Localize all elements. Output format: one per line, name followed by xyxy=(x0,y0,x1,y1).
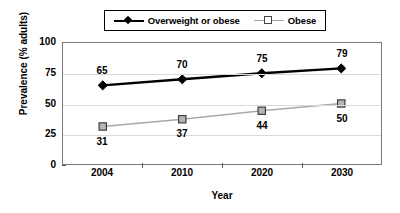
chart-legend: Overweight or obese Obese xyxy=(104,10,326,31)
y-tick-label: 25 xyxy=(16,129,56,139)
y-tick-mark xyxy=(62,165,66,166)
x-tick-mark xyxy=(142,163,143,168)
legend-entry-overweight-or-obese: Overweight or obese xyxy=(114,15,240,26)
x-tick-label: 2004 xyxy=(62,168,142,178)
chart-figure: Overweight or obese Obese Prevalence (% … xyxy=(0,0,400,213)
y-tick-label: 50 xyxy=(16,99,56,109)
data-point-label: 75 xyxy=(242,54,282,64)
data-point-label: 37 xyxy=(162,129,202,139)
data-point-label: 65 xyxy=(82,66,122,76)
y-tick-label: 75 xyxy=(16,68,56,78)
y-tick-label: 100 xyxy=(16,37,56,47)
legend-label-obese: Obese xyxy=(288,16,317,26)
data-point-label: 79 xyxy=(322,49,362,59)
data-point-label: 50 xyxy=(322,114,362,124)
legend-entry-obese: Obese xyxy=(254,15,317,26)
x-tick-label: 2020 xyxy=(222,168,302,178)
data-point-marker-square xyxy=(338,100,345,107)
data-point-marker-square xyxy=(179,116,186,123)
x-axis-ticks: 2004201020202030 xyxy=(62,168,382,182)
data-point-marker-square xyxy=(99,123,106,130)
legend-line-diamond-icon xyxy=(114,15,144,26)
legend-label-overweight-or-obese: Overweight or obese xyxy=(148,16,240,26)
data-point-marker-diamond xyxy=(337,64,346,73)
x-axis-title: Year xyxy=(62,190,382,201)
data-point-label: 31 xyxy=(82,137,122,147)
x-tick-label: 2030 xyxy=(302,168,382,178)
data-point-marker-diamond xyxy=(178,75,187,84)
x-tick-label: 2010 xyxy=(142,168,222,178)
data-point-marker-diamond xyxy=(98,81,107,90)
data-point-label: 44 xyxy=(242,121,282,131)
x-tick-mark xyxy=(222,163,223,168)
series-line xyxy=(103,68,342,85)
gridline xyxy=(63,105,381,106)
y-tick-label: 0 xyxy=(16,160,56,170)
y-axis-ticks: 0255075100 xyxy=(12,42,56,165)
data-point-label: 70 xyxy=(162,60,202,70)
data-point-marker-square xyxy=(258,107,265,114)
series-line xyxy=(103,104,342,127)
legend-line-square-icon xyxy=(254,15,284,26)
x-tick-mark xyxy=(302,163,303,168)
